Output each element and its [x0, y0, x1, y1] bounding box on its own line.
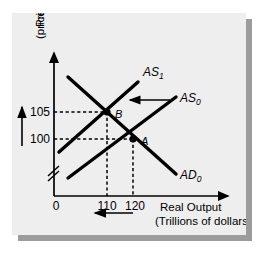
curve-label-as1-text: AS [142, 65, 159, 79]
curve-ad0 [68, 77, 176, 174]
y-tick-label-100: 100 [30, 132, 50, 146]
curve-label-as0-text: AS [179, 91, 196, 105]
chart-panel: 105 100 110 120 0 Price Level (price ind… [12, 13, 246, 235]
curve-label-ad0-subscript: 0 [197, 174, 202, 184]
x-axis-title-line1: Real Output [160, 201, 222, 213]
curve-label-as0-subscript: 0 [196, 97, 201, 107]
curve-label-as0: AS0 [179, 91, 201, 107]
curve-as1 [59, 82, 138, 152]
curve-label-as1: AS1 [142, 65, 164, 81]
figure-root: 105 100 110 120 0 Price Level (price ind… [0, 0, 264, 253]
curve-label-as1-subscript: 1 [159, 71, 164, 81]
y-tick-label-105: 105 [30, 105, 50, 119]
point-marker-b [103, 108, 110, 115]
x-tick-label-110: 110 [97, 199, 116, 213]
x-axis-title-line2: (Trillions of dollars) [155, 215, 246, 227]
point-marker-a [129, 135, 136, 142]
x-tick-label-120: 120 [125, 199, 145, 213]
curve-lines [59, 77, 176, 178]
point-label-a: A [140, 135, 148, 147]
as-ad-chart: 105 100 110 120 0 Price Level (price ind… [12, 13, 246, 235]
curve-label-ad0-text: AD [179, 168, 197, 182]
curve-label-ad0: AD0 [179, 168, 202, 184]
origin-label: 0 [53, 199, 60, 213]
point-label-b: B [115, 108, 122, 120]
y-axis-title-line2: (price index) [34, 13, 46, 39]
